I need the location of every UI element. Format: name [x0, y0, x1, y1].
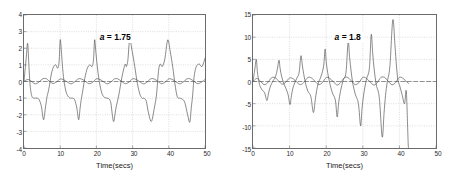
- y-tick-label: 3: [19, 29, 22, 36]
- y-tick-label: 5: [248, 57, 251, 64]
- y-tick-label: 10: [244, 34, 251, 41]
- y-tick-label: 0: [19, 79, 22, 86]
- series-small-amplitude-trace: [24, 78, 205, 83]
- x-axis-label-right: Time(secs): [326, 161, 363, 170]
- x-tick-label: 50: [204, 151, 211, 158]
- plot-area-left: a = 1.75 Time(secs) 43210-1-2-3-40102030…: [23, 14, 206, 149]
- plot-title-right: a = 1.8: [332, 32, 364, 43]
- x-tick-label: 20: [94, 151, 101, 158]
- plot-title-right-value: 1.8: [349, 32, 361, 42]
- figure-two-panel-timeseries: a = 1.75 Time(secs) 43210-1-2-3-40102030…: [0, 0, 454, 193]
- x-tick-label: 20: [324, 151, 331, 158]
- y-tick-label: -4: [17, 147, 22, 154]
- y-tick-label: 1: [19, 62, 22, 69]
- y-tick-label: 0: [248, 79, 251, 86]
- plot-title-left-value: 1.75: [114, 32, 131, 42]
- x-tick-label: 40: [398, 151, 405, 158]
- x-tick-label: 10: [287, 151, 294, 158]
- y-tick-label: -2: [17, 113, 22, 120]
- y-tick-label: -5: [246, 102, 251, 109]
- x-tick-label: 0: [22, 151, 25, 158]
- x-tick-label: 30: [130, 151, 137, 158]
- series-small-amplitude-trace: [253, 77, 409, 85]
- x-tick-label: 40: [167, 151, 174, 158]
- series-large-amplitude-trace: [24, 40, 205, 123]
- x-tick-label: 50: [435, 151, 442, 158]
- y-tick-label: -10: [242, 124, 251, 131]
- y-tick-label: -1: [17, 96, 22, 103]
- y-tick-label: -15: [242, 147, 251, 154]
- x-axis-label-left: Time(secs): [96, 161, 133, 170]
- y-tick-label: 15: [244, 12, 251, 19]
- plot-title-left-eq: =: [104, 32, 114, 42]
- x-tick-label: 0: [251, 151, 254, 158]
- plot-title-right-eq: =: [339, 32, 349, 42]
- y-tick-label: -3: [17, 130, 22, 137]
- y-tick-label: 2: [19, 46, 22, 53]
- plot-title-left: a = 1.75: [97, 32, 134, 43]
- plot-area-right: a = 1.8 Time(secs) 151050-5-10-150102030…: [252, 14, 437, 149]
- y-tick-label: 4: [19, 12, 22, 19]
- panel-a-1-8: a = 1.8 Time(secs) 151050-5-10-150102030…: [227, 0, 454, 193]
- x-tick-label: 10: [57, 151, 64, 158]
- panel-a-1-75: a = 1.75 Time(secs) 43210-1-2-3-40102030…: [0, 0, 227, 193]
- x-tick-label: 30: [361, 151, 368, 158]
